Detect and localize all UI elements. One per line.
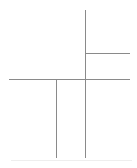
panel-upper-right-bottom[interactable] bbox=[85, 53, 130, 79]
panel-lower-right[interactable] bbox=[85, 79, 130, 158]
divider-right-column-horizontal[interactable] bbox=[85, 53, 130, 54]
wireframe-canvas bbox=[0, 0, 137, 168]
divider-upper-vertical[interactable] bbox=[85, 10, 86, 79]
panel-upper-left[interactable] bbox=[9, 10, 85, 79]
panel-upper-right-top[interactable] bbox=[85, 10, 130, 53]
divider-lower-vertical-left[interactable] bbox=[56, 79, 57, 158]
divider-lower-vertical-right[interactable] bbox=[85, 79, 86, 158]
panel-lower-left[interactable] bbox=[9, 79, 56, 158]
panel-lower-middle[interactable] bbox=[56, 79, 85, 158]
frame-shadow bbox=[11, 160, 132, 161]
divider-main-horizontal[interactable] bbox=[9, 79, 130, 80]
